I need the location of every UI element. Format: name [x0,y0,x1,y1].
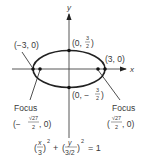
ellipse-equation: ( x 3 ) 2 + ( y 3/2 ) 2 = 1 [34,138,101,156]
left-vertex-leader [22,52,32,67]
svg-text:2: 2 [96,95,99,101]
bottom-covertex-dot [67,86,71,90]
svg-text:3/2: 3/2 [65,149,75,156]
left-focus-title: Focus [14,103,37,113]
svg-text:2: 2 [115,124,118,130]
left-vertex-dot [31,67,35,71]
right-focus-title: Focus [112,103,135,113]
svg-text:, 0): , 0) [39,119,51,129]
svg-text:(−: (− [13,119,21,129]
svg-text:= 1: = 1 [88,143,101,153]
right-focus-coord: ( √27 2 , 0) [107,115,134,130]
bottom-covertex-label: (0, − 3 2 ) [72,87,104,101]
svg-text:(0, −: (0, − [72,90,89,100]
svg-text:, 0): , 0) [122,119,134,129]
svg-text:3: 3 [86,35,89,41]
ellipse-diagram: x y (−3, 0) (3, 0) (0, 3 2 ) (0, − 3 2 )… [0,0,145,164]
right-vertex-dot [103,67,107,71]
svg-text:(0,: (0, [72,38,82,48]
svg-text:(: ( [107,119,110,129]
svg-text:+: + [53,143,58,153]
svg-text:2: 2 [32,124,35,130]
left-vertex-label: (−3, 0) [14,40,39,50]
svg-text:2: 2 [81,138,84,144]
svg-text:): ) [101,90,104,100]
svg-text:): ) [77,143,80,153]
left-focus-coord: (− √27 2 , 0) [13,115,51,130]
svg-text:2: 2 [47,138,50,144]
top-covertex-label: (0, 3 2 ) [72,35,94,49]
top-covertex-dot [67,49,71,53]
svg-text:√27: √27 [112,115,121,121]
svg-text:2: 2 [86,43,89,49]
svg-text:3: 3 [38,149,42,156]
svg-text:x: x [37,139,42,146]
svg-text:): ) [91,38,94,48]
svg-text:): ) [43,143,46,153]
y-axis-label: y [66,3,72,12]
svg-text:(: ( [34,143,37,153]
svg-text:3: 3 [96,87,99,93]
right-vertex-label: (3, 0) [105,54,125,64]
svg-text:y: y [67,139,72,147]
svg-text:√27: √27 [29,115,38,121]
x-axis-label: x [129,65,135,74]
